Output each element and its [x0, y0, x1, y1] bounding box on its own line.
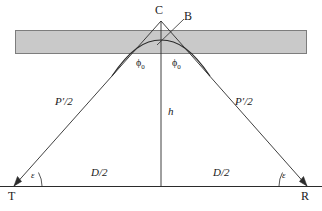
- node-label-t: T: [8, 190, 15, 202]
- node-label-b: B: [184, 10, 192, 22]
- measure-label-path-left: P′/2: [55, 96, 73, 107]
- measure-label-height: h: [168, 106, 174, 117]
- angle-label-epsilon-left: ε: [31, 171, 35, 180]
- angle-label-phi-left: ϕ0: [136, 58, 145, 71]
- angle-arc-epsilon-left: [39, 173, 43, 187]
- angle-label-epsilon-right: ε: [282, 171, 286, 180]
- measure-label-distance-right: D/2: [213, 167, 230, 178]
- node-label-c: C: [155, 4, 163, 16]
- node-label-r: R: [301, 190, 309, 202]
- angle-label-phi-right: ϕ0: [172, 58, 181, 71]
- phi-right-subscript: 0: [177, 63, 181, 71]
- figure-canvas: C B T R P′/2 P′/2 h D/2 D/2 ϕ0 ϕ0 ε ε: [0, 0, 322, 211]
- measure-label-path-right: P′/2: [235, 96, 253, 107]
- diagram-graphics: [0, 0, 322, 211]
- arrowhead-left: [14, 177, 22, 187]
- measure-label-distance-left: D/2: [91, 167, 108, 178]
- phi-left-subscript: 0: [141, 63, 145, 71]
- arrowhead-right: [300, 177, 308, 187]
